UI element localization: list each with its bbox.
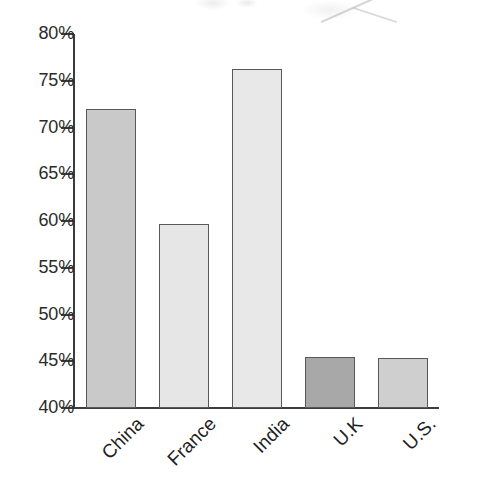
x-axis-label: France (164, 413, 221, 470)
scan-streak-icon (353, 7, 397, 23)
x-axis-label: India (249, 413, 294, 458)
bar-china (86, 109, 136, 408)
scan-speckle-icon (196, 0, 230, 10)
scan-streak-icon (321, 0, 389, 23)
y-axis-tick-label: 80% (18, 23, 74, 44)
bar-u-s (378, 358, 428, 408)
x-axis-label: U.S. (398, 413, 440, 455)
y-axis-tick-label: 50% (18, 304, 74, 325)
bar-france (159, 224, 209, 408)
y-axis-tick-label: 70% (18, 117, 74, 138)
y-axis-tick-label: 45% (18, 350, 74, 371)
bar-india (232, 69, 282, 408)
x-axis-label: China (97, 413, 148, 464)
bar-chart: 80%75%70%65%60%55%50%45%40% ChinaFranceI… (0, 0, 499, 480)
y-axis-tick-label: 40% (18, 397, 74, 418)
y-axis-tick-label: 75% (18, 70, 74, 91)
x-axis-label: U.K (329, 413, 367, 451)
y-axis-tick-label: 60% (18, 210, 74, 231)
scan-speckle-icon (236, 0, 258, 8)
bar-u-k (305, 357, 355, 408)
y-axis-tick-label: 65% (18, 163, 74, 184)
scan-smudge-icon (300, 0, 360, 20)
y-axis-tick-label: 55% (18, 257, 74, 278)
